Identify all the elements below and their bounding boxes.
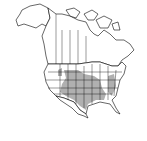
alaska [16,4,50,28]
range-map [0,0,147,141]
north-america-map [0,0,147,141]
